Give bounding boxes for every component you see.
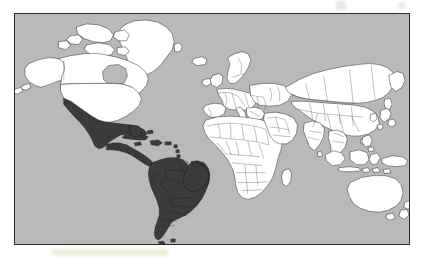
bottom-scan-smudge xyxy=(52,249,168,256)
world-map-figure: World map with Latin America highlighted… xyxy=(0,0,423,263)
map-frame: World map with Latin America highlighted… xyxy=(14,13,410,245)
top-right-scan-mark-2 xyxy=(398,2,405,9)
region-java xyxy=(338,167,361,172)
region-sri-lanka xyxy=(317,152,322,157)
region-jamaica xyxy=(134,142,141,146)
region-lesser-antilles-2 xyxy=(176,150,179,153)
region-bahamas xyxy=(147,130,153,134)
region-lesser-antilles-3 xyxy=(177,155,180,158)
region-lesser-antilles-1 xyxy=(174,145,177,148)
world-map-graphic: World map with Latin America highlighted… xyxy=(15,14,409,244)
top-right-scan-mark xyxy=(336,1,346,10)
region-falklands xyxy=(171,239,175,242)
region-puerto-rico xyxy=(165,142,171,145)
